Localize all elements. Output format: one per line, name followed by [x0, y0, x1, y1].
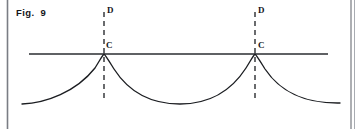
- figure-caption: Fig. 9: [16, 7, 46, 19]
- label-c-right: C: [258, 41, 265, 50]
- label-d-right: D: [258, 6, 265, 15]
- cycloid-curve: [22, 54, 340, 104]
- label-c-left: C: [106, 41, 113, 50]
- label-d-left: D: [107, 6, 114, 15]
- figure-drawing: [0, 0, 360, 129]
- figure-page: Fig. 9 D D C C: [0, 0, 360, 129]
